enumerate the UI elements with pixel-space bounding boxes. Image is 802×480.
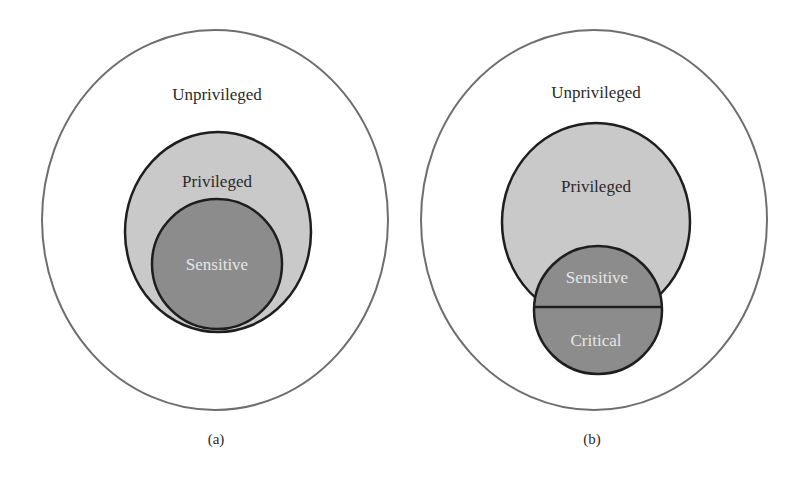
panel-a: Unprivileged Privileged Sensitive (a) xyxy=(42,30,388,448)
privileged-label-b: Privileged xyxy=(561,177,631,196)
unprivileged-label-b: Unprivileged xyxy=(551,83,641,102)
unprivileged-label-a: Unprivileged xyxy=(172,85,262,104)
panel-b: Unprivileged Privileged Sensitive Critic… xyxy=(421,30,767,448)
caption-b: (b) xyxy=(583,431,601,448)
critical-label-b: Critical xyxy=(571,331,622,350)
privileged-label-a: Privileged xyxy=(182,172,252,191)
privilege-levels-diagram: Unprivileged Privileged Sensitive (a) Un… xyxy=(0,0,802,480)
sensitive-label-b: Sensitive xyxy=(566,268,628,287)
sensitive-label-a: Sensitive xyxy=(186,255,248,274)
caption-a: (a) xyxy=(208,431,225,448)
